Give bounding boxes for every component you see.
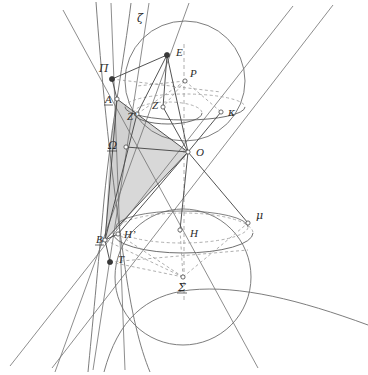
- dash-Pi-to-right: [112, 79, 221, 92]
- point-Pi: [109, 76, 114, 81]
- geometry-canvas: ζ E Π P A Z κ Z’ Ω O μ H’ H B T Σ: [0, 0, 368, 375]
- seg-B-T: [105, 240, 110, 262]
- dash-P-to-left: [137, 81, 185, 86]
- label-O: O: [196, 146, 204, 158]
- label-T: T: [118, 253, 125, 265]
- seg-E-O: [167, 55, 188, 152]
- point-H: [178, 228, 182, 232]
- dash-Sigma-to-H: [180, 230, 183, 277]
- point-T: [107, 259, 112, 264]
- label-Zprime: Z’: [127, 110, 137, 122]
- generator-5: [10, 6, 293, 366]
- seg-E-Z: [163, 55, 167, 107]
- label-P: P: [189, 67, 197, 79]
- dash-Sigma-to-B: [105, 240, 183, 277]
- label-A: A: [104, 93, 112, 105]
- generator-6: [55, 3, 189, 372]
- generator-2: [63, 10, 258, 368]
- geometry-figure: ζ E Π P A Z κ Z’ Ω O μ H’ H B T Σ: [0, 0, 368, 375]
- dash-T-to-right: [110, 250, 248, 262]
- cone-generators: [10, 3, 333, 372]
- label-Pi: Π: [98, 62, 109, 75]
- seg-Pi-E: [112, 55, 167, 79]
- point-A: [115, 97, 119, 101]
- upper-section-ellipse-back: [134, 102, 202, 113]
- upper-tangent-circle-back: [125, 94, 245, 107]
- point-Sigma: [181, 275, 185, 279]
- dash-P-to-kappa: [185, 81, 221, 112]
- label-E: E: [175, 46, 183, 58]
- label-zeta: ζ: [137, 12, 144, 25]
- point-Omega: [124, 145, 128, 149]
- label-B: B: [96, 233, 103, 245]
- label-H: H: [189, 227, 199, 239]
- point-Z: [161, 105, 165, 109]
- point-B: [103, 238, 107, 242]
- label-kappa: κ: [227, 106, 236, 119]
- label-Z: Z: [152, 99, 159, 111]
- label-Sigma: Σ: [177, 281, 186, 294]
- label-mu: μ: [256, 209, 263, 222]
- label-Omega: Ω: [107, 139, 117, 152]
- point-P: [183, 79, 187, 83]
- label-Hprime: H’: [123, 228, 136, 240]
- lower-branch-curve: [104, 289, 368, 372]
- generator-1: [52, 5, 333, 368]
- point-kappa: [219, 110, 223, 114]
- seg-O-mu: [188, 152, 248, 223]
- point-Hprime: [116, 232, 120, 236]
- point-E: [164, 52, 169, 57]
- point-mu: [246, 221, 250, 225]
- point-O: [186, 150, 190, 154]
